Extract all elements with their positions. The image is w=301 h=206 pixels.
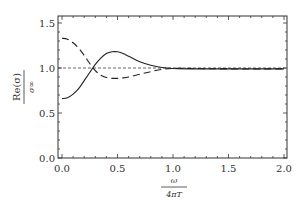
axis-ticks: [58, 16, 287, 158]
x-tick-labels: 0.00.51.01.52.0: [54, 163, 292, 174]
y-tick-label: 1.5: [39, 18, 55, 29]
x-tick-label: 1.0: [165, 163, 181, 174]
y-tick-label: 0.5: [39, 108, 55, 119]
series-dashed-line: [62, 38, 284, 78]
y-label-numerator: Re(σ): [11, 73, 22, 101]
x-tick-label: 0.0: [54, 163, 70, 174]
y-label-denominator: σ∞: [27, 81, 36, 93]
y-tick-label: 1.0: [39, 63, 55, 74]
x-tick-label: 2.0: [276, 163, 292, 174]
plot-frame: [58, 16, 287, 158]
series-solid-line: [62, 52, 284, 99]
x-tick-label: 0.5: [110, 163, 126, 174]
x-label-numerator: ω: [171, 176, 178, 185]
y-tick-labels: 0.00.51.01.5: [39, 18, 55, 164]
series-layer: [62, 38, 284, 98]
line-chart: 0.00.51.01.52.0 0.00.51.01.5 Re(σ) σ∞ ω …: [0, 0, 301, 206]
x-label-denominator: 4πT: [165, 190, 182, 199]
x-tick-label: 1.5: [221, 163, 237, 174]
y-axis-label: Re(σ) σ∞: [11, 70, 36, 104]
x-axis-label: ω 4πT: [161, 176, 187, 199]
y-tick-label: 0.0: [39, 153, 55, 164]
